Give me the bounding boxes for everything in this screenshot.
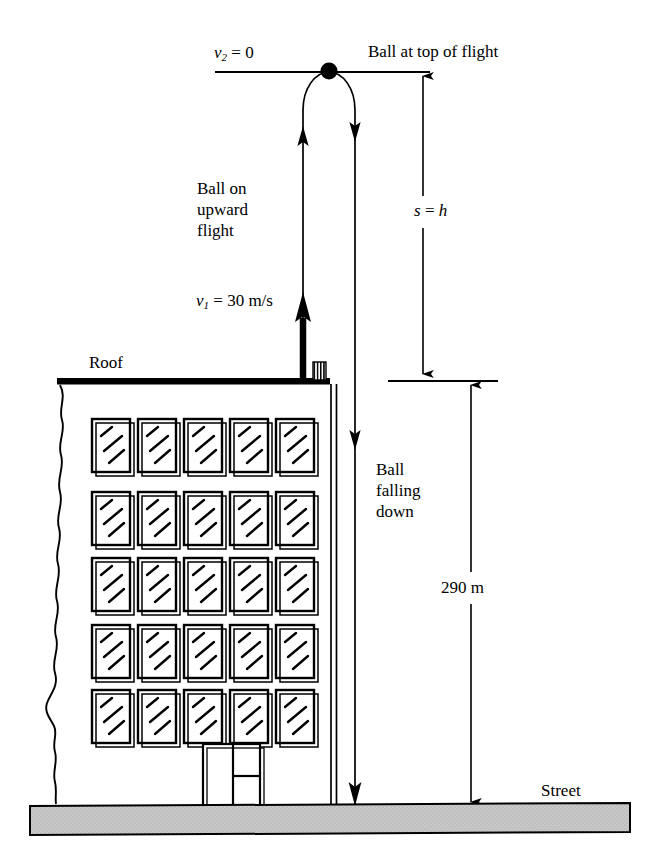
building [46, 362, 336, 806]
building-door [203, 744, 264, 806]
window [138, 419, 180, 476]
label-ball-falling-down: Ballfallingdown [376, 459, 420, 522]
window [230, 558, 272, 615]
street-slab [30, 803, 630, 835]
projectile-motion-diagram: v2 = 0 Ball at top of flight Ball onupwa… [0, 0, 661, 865]
window [184, 690, 226, 747]
building-right-wall [331, 384, 337, 806]
window [230, 625, 272, 682]
building-torn-left-edge [46, 385, 63, 804]
label-street: Street [541, 780, 581, 801]
window [184, 492, 226, 549]
window [230, 690, 272, 747]
label-roof: Roof [89, 352, 123, 373]
window [92, 492, 134, 549]
window [184, 625, 226, 682]
label-building-height: 290 m [441, 577, 484, 598]
window [92, 419, 134, 476]
window [138, 690, 180, 747]
window [138, 492, 180, 549]
diagram-canvas [0, 0, 661, 865]
window [276, 419, 318, 476]
initial-velocity-arrow [295, 292, 311, 381]
window [138, 625, 180, 682]
window [276, 690, 318, 747]
window [276, 625, 318, 682]
ball-icon [321, 63, 338, 80]
window [92, 690, 134, 747]
window [230, 419, 272, 476]
window [276, 492, 318, 549]
label-initial-velocity: v1 = 30 m/s [196, 290, 273, 316]
window [230, 492, 272, 549]
roof-vent-icon [313, 362, 326, 380]
label-ball-upward-flight: Ball onupwardflight [197, 178, 248, 241]
window [276, 558, 318, 615]
window [92, 625, 134, 682]
window [138, 558, 180, 615]
window [184, 419, 226, 476]
window-grid [92, 419, 318, 747]
label-ball-at-top: Ball at top of flight [368, 41, 498, 62]
label-s-equals-h: s = h [414, 200, 447, 221]
window [92, 558, 134, 615]
label-v2-zero: v2 = 0 [214, 42, 254, 68]
dimension-s-equals-h [388, 76, 498, 381]
window [184, 558, 226, 615]
roof-slab [57, 378, 330, 385]
